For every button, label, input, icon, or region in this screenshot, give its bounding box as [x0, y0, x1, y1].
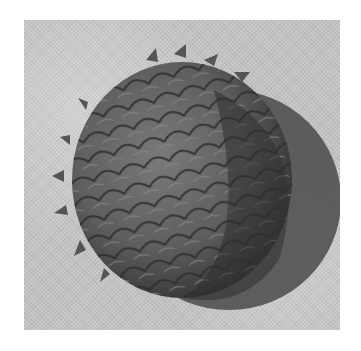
pine-cone-photo [24, 20, 340, 330]
pine-cone-illustration [24, 20, 340, 330]
